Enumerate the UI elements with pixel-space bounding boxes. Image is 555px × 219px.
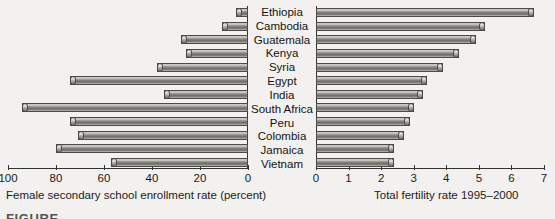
bar: [316, 103, 414, 112]
category-label: Cambodia: [249, 22, 315, 31]
bar-end-cap: [417, 90, 423, 99]
bar: [111, 158, 248, 167]
table-row: [8, 131, 248, 140]
bar: [70, 117, 248, 126]
bar: [22, 103, 248, 112]
category-label: Egypt: [249, 77, 315, 86]
table-row: [8, 90, 248, 99]
table-row: [8, 103, 248, 112]
category-label: Guatemala: [249, 36, 315, 45]
bar-end-cap: [453, 49, 459, 58]
bar-end-cap: [157, 63, 163, 72]
bar: [164, 90, 248, 99]
bar: [316, 158, 394, 167]
bar-end-cap: [22, 103, 28, 112]
bar-end-cap: [186, 49, 192, 58]
axis-tick-label: 3: [411, 172, 417, 185]
category-label: South Africa: [249, 105, 315, 114]
bar: [316, 90, 423, 99]
table-row: [316, 8, 544, 17]
table-row: [316, 144, 544, 153]
category-label: Ethiopia: [249, 8, 315, 17]
table-row: [8, 117, 248, 126]
table-row: [316, 63, 544, 72]
table-row: [316, 158, 544, 167]
table-row: [8, 158, 248, 167]
axis-tick-label: 0: [313, 172, 319, 185]
tick-labels-right: 01234567: [316, 172, 544, 186]
table-row: [316, 35, 544, 44]
table-row: [316, 117, 544, 126]
table-row: [8, 8, 248, 17]
table-row: [8, 35, 248, 44]
bar-end-cap: [404, 117, 410, 126]
axis-tick-label: 80: [50, 172, 63, 185]
axis-tick-label: 20: [194, 172, 207, 185]
bar: [316, 144, 394, 153]
category-label: Colombia: [249, 132, 315, 141]
axis-tick-label: 60: [98, 172, 111, 185]
axis-tick-label: 0: [245, 172, 251, 185]
axis-tick-label: 6: [508, 172, 514, 185]
bar-end-cap: [388, 158, 394, 167]
panel-total-fertility-rate: [316, 6, 544, 169]
table-row: [8, 22, 248, 31]
axis-tick: [544, 165, 545, 170]
table-row: [8, 144, 248, 153]
bar: [316, 117, 410, 126]
bar: [316, 76, 427, 85]
bar-end-cap: [78, 131, 84, 140]
figure-two-panel-bar-chart: 100806040200 Female secondary school enr…: [0, 0, 555, 219]
bar: [316, 131, 404, 140]
table-row: [316, 76, 544, 85]
category-label: Peru: [249, 119, 315, 128]
bar-rows-left: [8, 8, 248, 167]
bar: [316, 22, 485, 31]
plot-area-right: [316, 6, 544, 169]
bar-end-cap: [421, 76, 427, 85]
bar-end-cap: [398, 131, 404, 140]
table-row: [8, 76, 248, 85]
table-row: [316, 49, 544, 58]
axis-tick-label: 5: [476, 172, 482, 185]
bar-end-cap: [70, 76, 76, 85]
axis-tick-label: 4: [443, 172, 449, 185]
bar: [316, 35, 476, 44]
category-label: Kenya: [249, 49, 315, 58]
category-label: Jamaica: [249, 146, 315, 155]
axis-title-left: Female secondary school enrollment rate …: [6, 188, 266, 202]
bar-end-cap: [388, 144, 394, 153]
bar: [78, 131, 248, 140]
axis-tick-label: 1: [345, 172, 351, 185]
bar: [316, 49, 459, 58]
bar-end-cap: [437, 63, 443, 72]
panel-female-secondary-enrollment: [8, 6, 248, 169]
bar: [56, 144, 248, 153]
bar-end-cap: [164, 90, 170, 99]
axis-tick-label: 100: [0, 172, 18, 185]
bar-end-cap: [479, 22, 485, 31]
category-labels: EthiopiaCambodiaGuatemalaKenyaSyriaEgypt…: [249, 8, 315, 169]
bar-end-cap: [408, 103, 414, 112]
bar: [316, 63, 443, 72]
bar-end-cap: [236, 8, 242, 17]
bar: [316, 8, 534, 17]
bar-end-cap: [222, 22, 228, 31]
bar: [186, 49, 248, 58]
category-label: Syria: [249, 63, 315, 72]
bar: [157, 63, 248, 72]
axis-tick-label: 2: [378, 172, 384, 185]
bar-end-cap: [111, 158, 117, 167]
category-label: India: [249, 91, 315, 100]
bar-end-cap: [181, 35, 187, 44]
table-row: [8, 63, 248, 72]
bar-end-cap: [70, 117, 76, 126]
plot-area-left: [8, 6, 248, 169]
bar: [181, 35, 248, 44]
axis-title-right: Total fertility rate 1995–2000: [374, 188, 518, 202]
table-row: [316, 131, 544, 140]
table-row: [316, 22, 544, 31]
bar-end-cap: [56, 144, 62, 153]
axis-tick-label: 7: [541, 172, 547, 185]
axis-tick-label: 40: [146, 172, 159, 185]
